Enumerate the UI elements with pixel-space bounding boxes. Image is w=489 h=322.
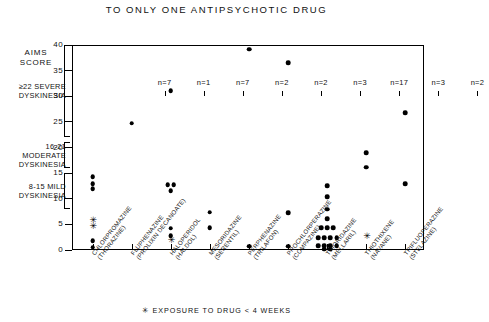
data-point: [364, 151, 369, 156]
data-point: [168, 226, 173, 231]
count-label-thioridazine: n=17: [390, 78, 408, 87]
data-point: [172, 182, 177, 187]
data-point: [165, 182, 170, 187]
data-point: [331, 225, 336, 230]
top-tick-chlorpromazine: [165, 91, 166, 96]
data-point: [403, 181, 408, 186]
data-point: [364, 165, 369, 170]
data-point-short-exposure: ✳: [90, 222, 96, 230]
count-label-haloperidol: n=7: [236, 78, 250, 87]
severity-label-line: MODERATE: [0, 151, 66, 160]
data-point: [316, 236, 321, 241]
severity-label-1: ≥22 SEVEREDYSKINESIA: [0, 82, 66, 100]
count-label-thiothixene: n=3: [432, 78, 446, 87]
y-tick-mark: [65, 250, 72, 251]
data-point: [208, 210, 213, 215]
y-tick-label: 0: [58, 245, 63, 255]
data-point: [168, 89, 173, 94]
footnote-marker-icon: ✳: [142, 306, 150, 315]
y-tick-0: 0: [0, 245, 72, 255]
y-tick-label: 35: [53, 66, 63, 76]
severity-label-2: 16-21MODERATEDYSKINESIA: [0, 142, 66, 169]
y-tick-label: 40: [53, 40, 63, 50]
data-point: [316, 243, 321, 248]
data-point: [328, 236, 333, 241]
y-tick-5: 5: [0, 219, 72, 229]
top-tick-haloperidol: [243, 91, 244, 96]
top-tick-thioridazine: [399, 91, 400, 96]
data-point-short-exposure: ✳: [168, 236, 174, 244]
severity-label-line: DYSKINESIA: [0, 160, 66, 169]
count-label-perphenazine: n=2: [314, 78, 328, 87]
data-point: [286, 211, 291, 216]
y-tick-35: 35: [0, 66, 72, 76]
data-point: [325, 225, 330, 230]
y-tick-label: 15: [53, 168, 63, 178]
data-point-short-exposure: ✳: [363, 232, 369, 240]
severity-label-line: 8-15 MILD: [0, 182, 66, 191]
count-label-fluphenazine: n=1: [197, 78, 211, 87]
top-tick-mesoridazine: [282, 91, 283, 96]
x-axis-drug-labels: CHLORPROMAZINE(THORAZINE)FLUPHENAZINE(PR…: [72, 252, 424, 314]
top-tick-perphenazine: [321, 91, 322, 96]
y-tick-label: 5: [58, 219, 63, 229]
data-point: [90, 175, 95, 180]
data-point: [286, 60, 291, 65]
data-point: [90, 186, 95, 191]
severity-label-3: 8-15 MILDDYSKINESIA: [0, 182, 66, 200]
severity-label-line: DYSKINESIA: [0, 91, 66, 100]
count-label-chlorpromazine: n=7: [158, 78, 172, 87]
chart-title: TO ONLY ONE ANTIPSYCHOTIC DRUG: [0, 4, 433, 15]
y-tick-label: 25: [53, 117, 63, 127]
data-point: [129, 121, 134, 126]
top-tick-fluphenazine: [204, 91, 205, 96]
y-tick-40: 40: [0, 40, 72, 50]
y-tick-mark: [65, 224, 72, 225]
severity-label-line: 16-21: [0, 142, 66, 151]
count-label-trifluoperazine: n=2: [471, 78, 485, 87]
data-point: [247, 47, 252, 52]
severity-label-line: DYSKINESIA: [0, 191, 66, 200]
data-point: [208, 225, 213, 230]
top-tick-trifluoperazine: [477, 91, 478, 96]
data-point: [90, 239, 95, 244]
y-tick-25: 25: [0, 117, 72, 127]
top-tick-prochlorperazine: [360, 91, 361, 96]
footnote-text: EXPOSURE TO DRUG < 4 WEEKS: [153, 306, 291, 315]
data-point: [90, 181, 95, 186]
count-label-mesoridazine: n=2: [275, 78, 289, 87]
data-point: [322, 236, 327, 241]
top-tick-thiothixene: [438, 91, 439, 96]
data-point: [403, 111, 408, 116]
y-tick-15: 15: [0, 168, 72, 178]
severity-label-line: ≥22 SEVERE: [0, 82, 66, 91]
footnote: ✳ EXPOSURE TO DRUG < 4 WEEKS: [0, 306, 433, 315]
data-point: [325, 183, 330, 188]
count-label-prochlorperazine: n=3: [353, 78, 367, 87]
data-point: [168, 189, 173, 194]
